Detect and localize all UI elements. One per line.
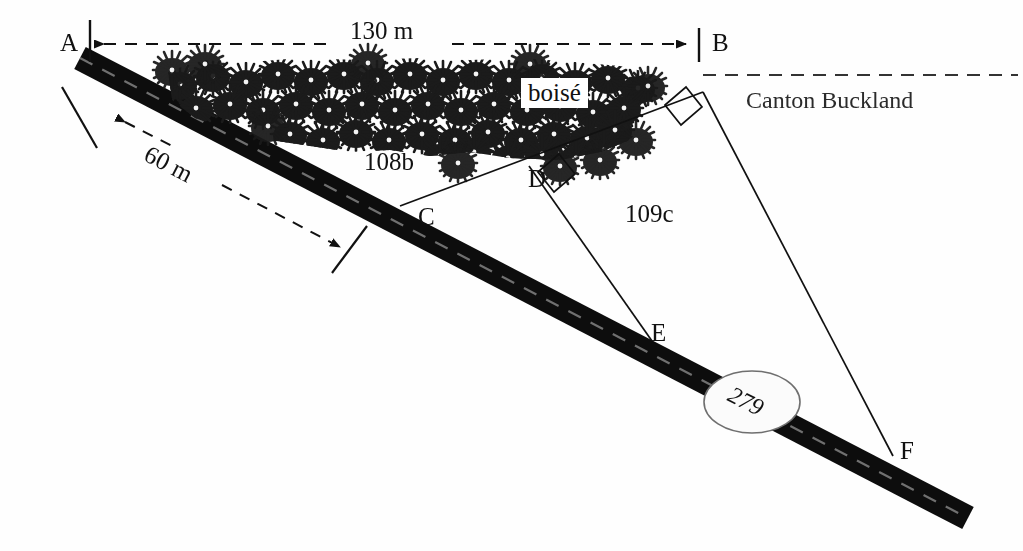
point-label-a: A (60, 30, 78, 55)
tick-60m-end (332, 226, 367, 273)
diagram-canvas: B) ===== --> (0, 0, 1023, 551)
point-label-e: E (651, 320, 666, 345)
parcel-label-109c: 109c (625, 201, 674, 226)
cadastral-diagram: B) ===== --> A B C D E F 108b 109c 130 m… (0, 0, 1023, 551)
parcel-label-108b: 108b (364, 149, 414, 174)
point-label-b: B (712, 30, 729, 55)
boundary-label-canton-buckland: Canton Buckland (746, 88, 913, 112)
dimension-label-130m: 130 m (350, 18, 413, 43)
point-label-f: F (900, 438, 914, 463)
tick-60m-start (62, 87, 97, 148)
right-angle-marker-b (665, 87, 702, 125)
area-label-boise: boisé (521, 78, 588, 108)
point-label-c: C (418, 204, 435, 229)
road-279-band (80, 58, 968, 518)
point-label-d: D (528, 166, 546, 191)
